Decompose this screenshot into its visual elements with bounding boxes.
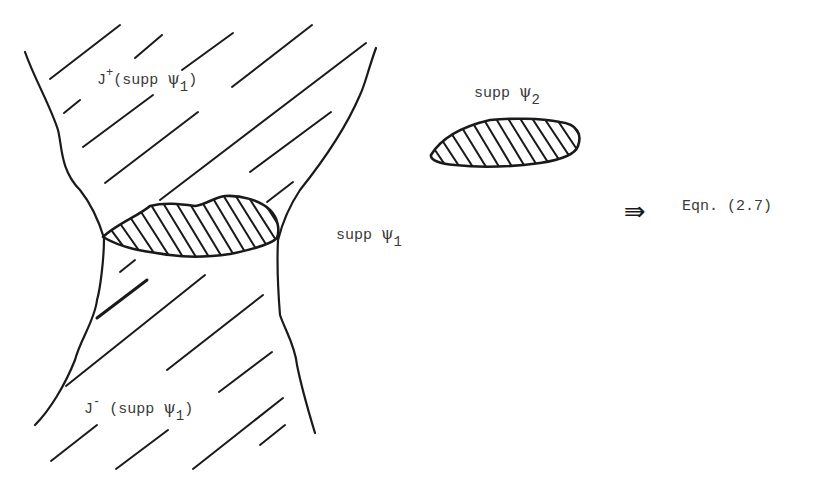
label-j: J	[97, 72, 106, 89]
future-cone-hatching	[50, 25, 366, 202]
cone-right-boundary-lower	[278, 240, 315, 433]
label-sub: 1	[176, 408, 184, 424]
label-supp: (supp	[113, 72, 167, 89]
label-psi: ψ	[167, 69, 180, 88]
label-close: )	[188, 72, 197, 89]
future-cone-label: J+(supp ψ1)	[97, 68, 197, 92]
label-j: J	[84, 401, 93, 418]
label-psi: ψ	[381, 224, 394, 243]
supp-psi-2-label: supp ψ2	[474, 82, 540, 105]
equation-reference: Eqn. (2.7)	[682, 198, 772, 215]
label-psi: ψ	[519, 82, 532, 101]
label-close: )	[184, 401, 193, 418]
supp-psi-1-label: supp ψ1	[336, 224, 402, 247]
label-psi: ψ	[163, 398, 176, 417]
label-supp: supp	[474, 85, 519, 102]
label-sub: 2	[532, 92, 540, 108]
label-supp: supp	[336, 227, 381, 244]
label-supp: (supp	[100, 401, 163, 418]
supp-psi-2-region	[420, 112, 600, 175]
cone-left-boundary	[25, 52, 104, 425]
label-sub: 1	[180, 79, 188, 95]
label-plus: +	[106, 66, 113, 80]
cone-right-boundary-upper	[278, 48, 376, 240]
label-minus: -	[93, 395, 100, 409]
implies-arrow-icon: ⇛	[624, 196, 646, 226]
past-cone-label: J- (supp ψ1)	[84, 397, 193, 421]
past-cone-hatching	[51, 260, 285, 469]
label-sub: 1	[394, 234, 402, 250]
